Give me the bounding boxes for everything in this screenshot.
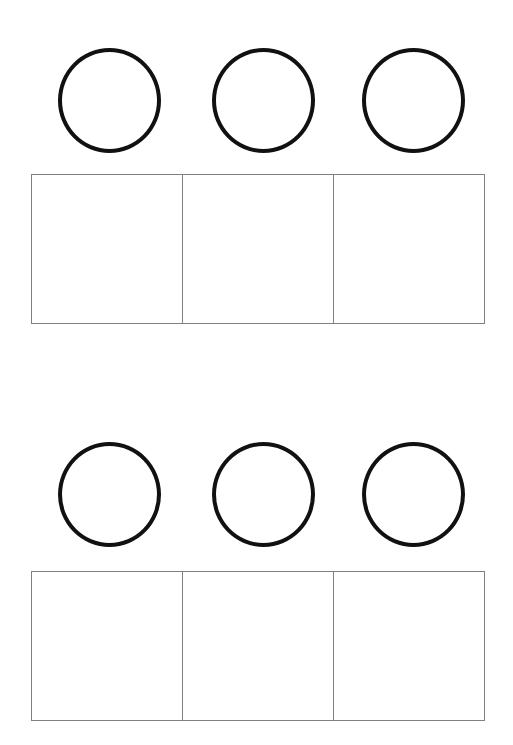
circle-icon-g1-2[interactable] — [212, 48, 315, 153]
circle-row-group-1 — [0, 48, 513, 158]
circle-icon-g2-2[interactable] — [212, 442, 315, 547]
answer-cell-g1-2[interactable] — [182, 175, 333, 323]
circle-icon-g2-3[interactable] — [362, 442, 465, 547]
answer-cell-g2-2[interactable] — [182, 572, 333, 720]
circle-icon-g2-1[interactable] — [58, 442, 161, 547]
answer-table-group-2 — [31, 571, 485, 721]
circle-icon-g1-1[interactable] — [58, 48, 161, 153]
worksheet-group-2 — [0, 373, 513, 745]
worksheet-page — [0, 0, 513, 745]
answer-cell-g1-3[interactable] — [333, 175, 484, 323]
worksheet-group-1 — [0, 0, 513, 373]
answer-cell-g1-1[interactable] — [32, 175, 182, 323]
circle-icon-g1-3[interactable] — [362, 48, 465, 153]
answer-cell-g2-1[interactable] — [32, 572, 182, 720]
answer-cell-g2-3[interactable] — [333, 572, 484, 720]
circle-row-group-2 — [0, 442, 513, 552]
answer-table-group-1 — [31, 174, 485, 324]
